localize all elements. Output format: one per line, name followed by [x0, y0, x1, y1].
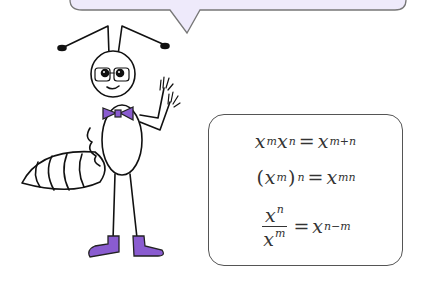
- equals-sign: =: [307, 166, 323, 188]
- equals-sign: =: [299, 130, 315, 152]
- exponent: m: [275, 227, 285, 240]
- formula-power-rule: ( xm )n = xmn: [255, 166, 355, 188]
- exponent: m: [277, 171, 287, 184]
- ant-character: [0, 0, 210, 283]
- base: x: [255, 130, 266, 152]
- formula-quotient-rule: xn xm = xn−m: [260, 203, 351, 250]
- exponent: n−m: [324, 220, 351, 233]
- base: x: [265, 166, 276, 188]
- exponent: mn: [338, 171, 356, 184]
- base: x: [312, 215, 323, 237]
- base: x: [277, 130, 288, 152]
- paren: (: [256, 166, 263, 188]
- exponent: n: [289, 135, 296, 148]
- base: x: [263, 228, 274, 250]
- formula-box: xm xn = xm+n ( xm )n = xmn xn xm = xn−m: [208, 114, 403, 266]
- exponent: m: [267, 135, 277, 148]
- paren: ): [288, 166, 295, 188]
- exponent: n: [277, 203, 284, 216]
- boot-icon: [89, 236, 164, 257]
- base: x: [326, 166, 337, 188]
- exponent: m+n: [329, 135, 356, 148]
- equals-sign: =: [293, 215, 309, 237]
- formula-product-rule: xm xn = xm+n: [255, 130, 356, 152]
- base: x: [318, 130, 329, 152]
- base: x: [265, 204, 276, 226]
- exponent: n: [297, 171, 304, 184]
- fraction: xn xm: [260, 203, 288, 250]
